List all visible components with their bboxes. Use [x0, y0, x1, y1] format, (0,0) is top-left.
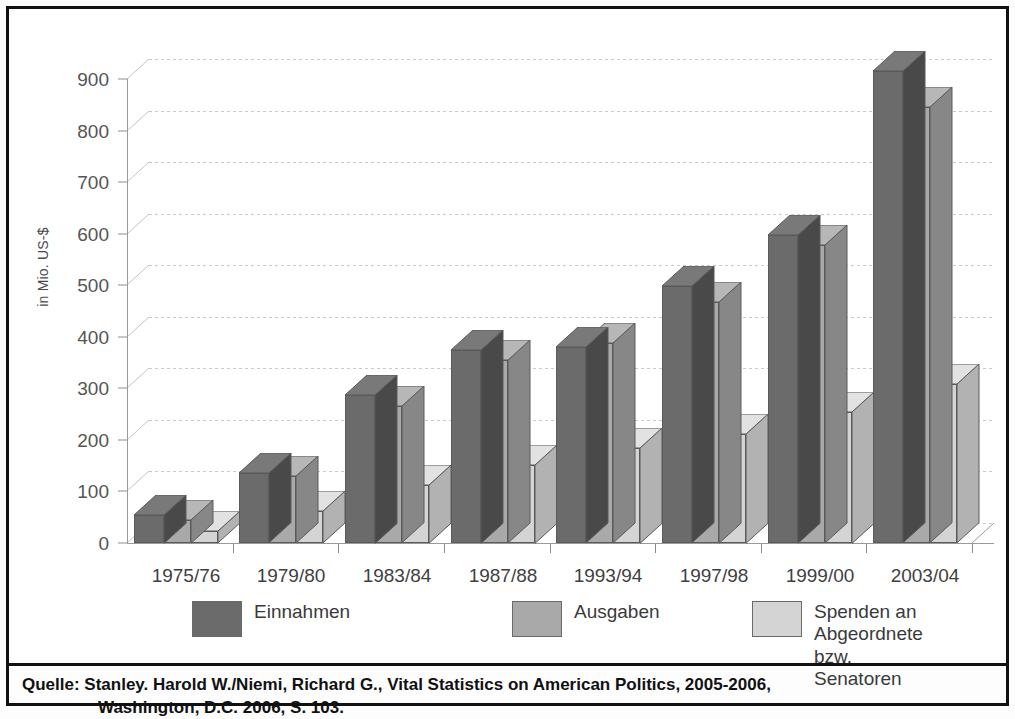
- bar-front-face: [556, 347, 586, 543]
- grid-connector: [127, 265, 151, 287]
- bar: [662, 266, 692, 543]
- y-axis-tick-label: 200: [49, 430, 109, 449]
- grid-connector: [127, 59, 151, 81]
- grid-connector: [127, 471, 151, 493]
- x-axis-tick: [761, 544, 762, 553]
- chart-container: in Mio. US-$ 010020030040050060070080090…: [9, 9, 1006, 660]
- x-axis-category-label: 1993/94: [574, 565, 643, 587]
- x-axis-category-label: 1983/84: [363, 565, 432, 587]
- x-axis-tick: [972, 544, 973, 553]
- bar-side-face: [692, 266, 715, 544]
- bar: [451, 330, 481, 543]
- bar-top-face: [556, 327, 609, 348]
- chart-page: in Mio. US-$ 010020030040050060070080090…: [0, 0, 1015, 719]
- chart-legend: EinnahmenAusgabenSpenden an Abgeordnete …: [9, 597, 1006, 657]
- bar-side-face: [930, 87, 953, 544]
- x-axis-category-label: 1975/76: [152, 565, 221, 587]
- grid-connector: [127, 317, 151, 339]
- bar-side-face: [719, 282, 742, 544]
- gridline: [149, 214, 994, 215]
- y-axis-tick: [118, 285, 127, 286]
- gridline: [149, 59, 994, 60]
- bar-side-face: [481, 330, 504, 544]
- bar-top-face: [873, 51, 926, 72]
- y-axis-line: [127, 79, 128, 543]
- y-axis-tick-label: 500: [49, 276, 109, 295]
- y-axis-title: in Mio. US-$: [35, 197, 51, 337]
- gridline: [149, 111, 994, 112]
- y-axis-tick: [118, 388, 127, 389]
- bar-side-face: [375, 375, 398, 544]
- bar-side-face: [825, 225, 848, 544]
- y-axis-tick-label: 100: [49, 482, 109, 501]
- plot-area: in Mio. US-$ 010020030040050060070080090…: [9, 9, 1006, 587]
- source-note: Quelle: Stanley. Harold W./Niemi, Richar…: [22, 674, 982, 719]
- legend-label: Ausgaben: [574, 601, 660, 623]
- frame-border-right: [1006, 6, 1009, 706]
- y-axis-tick: [118, 233, 127, 234]
- y-axis-tick-label: 900: [49, 70, 109, 89]
- bar-front-face: [345, 395, 375, 543]
- legend-swatch-2: [512, 601, 562, 637]
- y-axis-tick: [118, 543, 127, 544]
- bar-top-face: [345, 375, 398, 396]
- bar-side-face: [586, 327, 609, 544]
- x-axis-category-label: 1979/80: [257, 565, 326, 587]
- x-axis-tick: [444, 544, 445, 553]
- y-axis-tick-label: 0: [49, 534, 109, 553]
- source-line-1: Quelle: Stanley. Harold W./Niemi, Richar…: [22, 675, 771, 694]
- x-axis-category-label: 1997/98: [680, 565, 749, 587]
- legend-label: Einnahmen: [254, 601, 350, 623]
- bar-front-face: [662, 286, 692, 543]
- y-axis-tick: [118, 336, 127, 337]
- y-axis-tick-label: 600: [49, 224, 109, 243]
- x-axis-tick: [866, 544, 867, 553]
- bar: [345, 375, 375, 543]
- x-axis-tick: [550, 544, 551, 553]
- bar-side-face: [852, 392, 875, 544]
- y-axis-tick: [118, 79, 127, 80]
- y-axis-tick: [118, 130, 127, 131]
- grid-connector: [127, 162, 151, 184]
- bar-top-face: [662, 266, 715, 287]
- bar-top-face: [134, 495, 187, 516]
- bar: [556, 327, 586, 543]
- bar-top-face: [451, 330, 504, 351]
- bar-side-face: [798, 215, 821, 544]
- x-axis-tick: [233, 544, 234, 553]
- y-axis-tick: [118, 439, 127, 440]
- bar-side-face: [508, 340, 531, 544]
- bar-front-face: [873, 71, 903, 543]
- bar-side-face: [613, 323, 636, 544]
- grid-connector: [127, 420, 151, 442]
- bar-front-face: [239, 473, 269, 543]
- bar-top-face: [768, 215, 821, 236]
- y-axis-tick-label: 400: [49, 327, 109, 346]
- gridline: [149, 317, 994, 318]
- legend-swatch-1: [192, 601, 242, 637]
- y-axis-tick-label: 800: [49, 121, 109, 140]
- gridline: [149, 265, 994, 266]
- grid-connector: [127, 368, 151, 390]
- bar: [768, 215, 798, 543]
- bar-side-face: [957, 364, 980, 544]
- x-axis-tick: [338, 544, 339, 553]
- y-axis-tick: [118, 182, 127, 183]
- bar: [239, 453, 269, 543]
- bar-front-face: [134, 515, 164, 543]
- bar-front-face: [451, 350, 481, 543]
- bar: [134, 495, 164, 543]
- grid-connector: [127, 214, 151, 236]
- gridline: [149, 162, 994, 163]
- bar-front-face: [768, 235, 798, 543]
- legend-swatch-3: [752, 601, 802, 637]
- bar-side-face: [402, 386, 425, 544]
- x-axis-tick: [655, 544, 656, 553]
- bar-side-face: [903, 51, 926, 544]
- x-axis-category-label: 1987/88: [469, 565, 538, 587]
- y-axis-tick-label: 300: [49, 379, 109, 398]
- x-axis-category-label: 2003/04: [891, 565, 960, 587]
- y-axis-tick: [118, 491, 127, 492]
- y-axis-tick-label: 700: [49, 173, 109, 192]
- source-divider: [9, 663, 1006, 666]
